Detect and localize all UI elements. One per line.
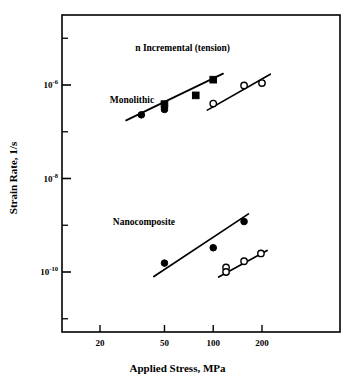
- y-tick-label: 10-6: [0, 78, 58, 90]
- plot-annotation: Monolithic: [110, 95, 154, 105]
- chart-canvas: [0, 0, 355, 390]
- x-tick-label: 200: [242, 338, 282, 348]
- x-tick-label: 50: [144, 338, 184, 348]
- figure: 10-610-810-10 2050100200 n Incremental (…: [0, 0, 355, 390]
- x-tick-label: 20: [80, 338, 120, 348]
- plot-annotation: Nanocomposite: [113, 217, 175, 227]
- y-axis-title: Strain Rate, 1/s: [7, 118, 19, 238]
- x-tick-label: 100: [193, 338, 233, 348]
- y-tick-label: 10-10: [0, 265, 58, 277]
- plot-frame: [62, 15, 340, 332]
- plot-annotation: n Incremental (tension): [135, 43, 230, 53]
- x-axis-title: Applied Stress, MPa: [0, 362, 355, 374]
- axis-ticks: [62, 38, 262, 332]
